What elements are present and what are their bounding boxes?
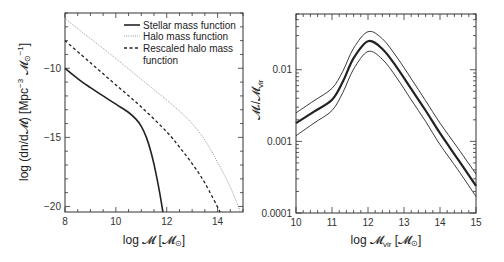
y-tick-label: 0.01 [273, 64, 293, 75]
right-panel: 1011121314150.00010.0010.01 log 𝓜vir [𝓜⊙… [249, 14, 482, 249]
x-tick-label: 14 [434, 217, 446, 228]
right-plot-frame [296, 14, 476, 213]
x-tick-label: 8 [62, 216, 68, 227]
left-y-axis-label: log (dn/d𝓜) [Mpc−3 𝓜⊙−1] [16, 43, 32, 181]
x-tick-label: 15 [470, 217, 482, 228]
legend-label-rescaled: Rescaled halo mass [143, 43, 233, 54]
x-tick-label: 10 [110, 216, 122, 227]
y-tick-label: 0.0001 [261, 208, 292, 219]
y-tick-label: −15 [44, 132, 61, 143]
y-tick-label: 0.001 [267, 136, 292, 147]
x-tick-label: 12 [161, 216, 173, 227]
x-tick-label: 13 [398, 217, 410, 228]
series-lower-bound [296, 51, 476, 196]
legend-label-stellar: Stellar mass function [143, 20, 236, 31]
x-tick-label: 12 [362, 217, 374, 228]
y-tick-label: −10 [44, 63, 61, 74]
left-x-axis-label: log 𝓜 [𝓜⊙] [123, 233, 185, 248]
right-y-axis-label: 𝓜*/𝓜vir [249, 79, 265, 120]
right-series [296, 31, 476, 196]
legend: Stellar mass function Halo mass function… [124, 20, 236, 66]
legend-label-halo: Halo mass function [143, 31, 228, 42]
x-tick-label: 11 [327, 217, 338, 228]
series-solid [65, 68, 163, 212]
series-dashed [65, 41, 220, 212]
right-ticks: 1011121314150.00010.0010.01 [261, 14, 482, 228]
x-tick-label: 14 [212, 216, 224, 227]
y-tick-label: −20 [44, 201, 61, 212]
left-panel: 8101214−10−15−20 Stellar mass function H… [16, 13, 243, 248]
x-tick-label: 10 [290, 217, 302, 228]
chart-canvas: 8101214−10−15−20 Stellar mass function H… [0, 0, 504, 262]
right-x-axis-label: log 𝓜vir [𝓜⊙] [351, 233, 422, 249]
legend-label-rescaled-cont: function [143, 55, 178, 66]
